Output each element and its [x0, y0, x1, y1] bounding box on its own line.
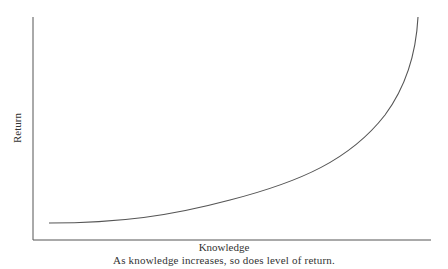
return-curve	[49, 17, 418, 223]
y-axis-label: Return	[11, 113, 23, 143]
x-axis-label: Knowledge	[0, 241, 448, 253]
chart-canvas	[0, 0, 448, 269]
figure-caption: As knowledge increases, so does level of…	[0, 254, 448, 266]
